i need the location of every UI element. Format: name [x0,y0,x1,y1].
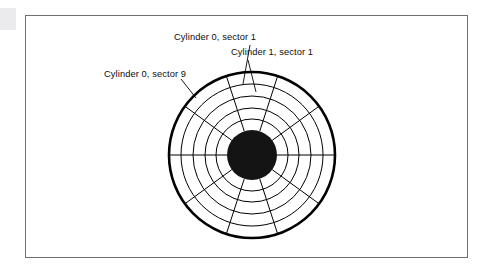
sector-spoke-1 [272,106,319,140]
label-cylinder-0-sector-9: Cylinder 0, sector 9 [104,70,186,79]
sector-spoke-9 [272,170,319,204]
spindle-hub-circle [227,130,277,180]
label-cylinder-0-sector-1: Cylinder 0, sector 1 [174,33,256,42]
label-cylinder-1-sector-1: Cylinder 1, sector 1 [231,48,313,57]
figure-page: Cylinder 0, sector 1 Cylinder 1, sector … [0,0,493,274]
leader-line-cylinder-1-sector-1 [248,60,256,92]
leader-line-cylinder-0-sector-9 [181,79,196,98]
sector-spoke-6 [185,170,232,204]
sector-spoke-4 [185,106,232,140]
